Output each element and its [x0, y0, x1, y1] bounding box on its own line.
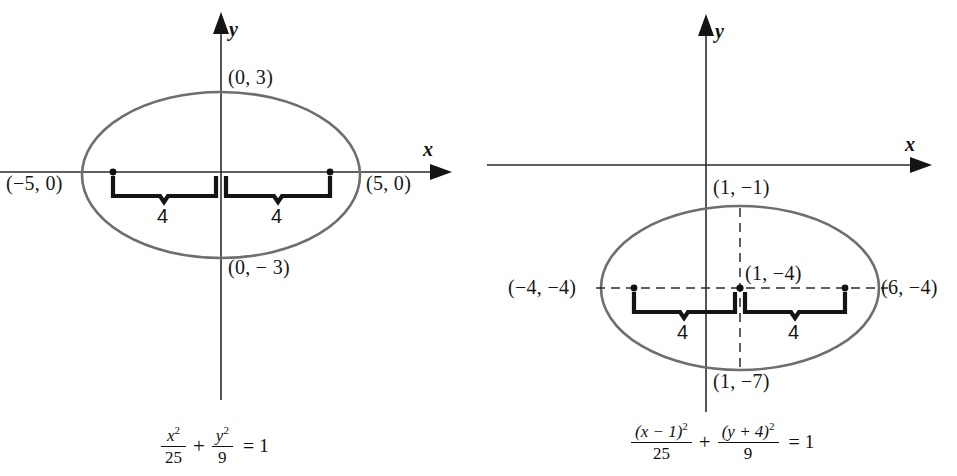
right-equation-equals: =: [789, 431, 800, 454]
left-focus-point-positive: [327, 169, 334, 176]
right-equation-numerator-1: (x − 1)2: [631, 421, 692, 442]
left-focus-point-negative: [110, 169, 117, 176]
left-vertex-right-label: (5, 0): [366, 172, 411, 195]
left-x-axis-arrowhead: [430, 164, 452, 180]
right-y-axis-label: y: [715, 20, 724, 43]
right-equation: (x − 1)2 25 + (y + 4)2 9 = 1: [628, 421, 814, 463]
left-equation-fraction-1: x2 25: [161, 425, 186, 467]
left-equation-denominator-1: 25: [161, 446, 186, 468]
right-equation-fraction-2: (y + 4)2 9: [718, 421, 779, 463]
right-brace-label-left: 4: [677, 321, 688, 344]
left-y-axis-arrowhead: [213, 12, 229, 34]
figure-canvas: [0, 0, 957, 476]
right-covertex-top-label: (1, −1): [713, 176, 770, 199]
left-equation-denominator-2: 9: [212, 446, 233, 468]
right-center-label: (1, −4): [745, 262, 802, 285]
left-equation-numerator-1: x2: [163, 425, 184, 446]
right-focus-point-left: [631, 285, 638, 292]
right-equation-denominator-1: 25: [631, 442, 692, 464]
right-vertex-left-label: (−4, −4): [508, 276, 576, 299]
left-covertex-top-label: (0, 3): [228, 66, 273, 89]
right-x-axis-arrowhead: [910, 157, 932, 173]
right-equation-operator: +: [699, 430, 711, 455]
left-figure-group: [0, 12, 452, 400]
right-brace-right-side: [745, 292, 845, 318]
left-equation-fraction-2: y2 9: [212, 425, 233, 467]
left-brace-label-negative: 4: [157, 205, 168, 228]
left-equation-numerator-2: y2: [212, 425, 233, 446]
right-figure-group: [487, 14, 932, 412]
right-focus-point-right: [842, 285, 849, 292]
right-center-point: [736, 284, 743, 291]
left-equation-result: 1: [259, 435, 269, 457]
left-equation-equals: =: [243, 435, 254, 458]
right-vertex-right-label: (6, −4): [881, 276, 938, 299]
right-equation-result: 1: [805, 431, 815, 453]
left-x-axis-label: x: [423, 138, 433, 161]
left-covertex-bottom-label: (0, − 3): [228, 256, 290, 279]
left-equation-operator: +: [193, 434, 205, 459]
left-brace-label-positive: 4: [271, 205, 282, 228]
right-equation-numerator-2: (y + 4)2: [718, 421, 779, 442]
left-brace-positive-side: [226, 176, 330, 202]
right-brace-label-right: 4: [788, 321, 799, 344]
left-y-axis-label: y: [229, 18, 238, 41]
right-brace-left-side: [634, 292, 735, 318]
left-vertex-left-label: (−5, 0): [6, 172, 63, 195]
right-equation-fraction-1: (x − 1)2 25: [631, 421, 692, 463]
right-y-axis-arrowhead: [698, 14, 714, 36]
left-equation: x2 25 + y2 9 = 1: [158, 425, 269, 467]
right-equation-denominator-2: 9: [718, 442, 779, 464]
right-x-axis-label: x: [905, 133, 915, 156]
right-covertex-bottom-label: (1, −7): [713, 370, 770, 393]
left-brace-negative-side: [113, 176, 216, 202]
